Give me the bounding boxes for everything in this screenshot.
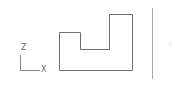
profile-outline[interactable] bbox=[60, 15, 133, 71]
axis-label-z: Z bbox=[21, 44, 26, 52]
faint-marker bbox=[170, 42, 171, 45]
axis-label-x: X bbox=[41, 66, 46, 74]
panel-divider[interactable] bbox=[152, 8, 153, 79]
axis-indicator-icon bbox=[20, 55, 40, 71]
drawing-canvas[interactable]: Z X bbox=[0, 0, 175, 87]
